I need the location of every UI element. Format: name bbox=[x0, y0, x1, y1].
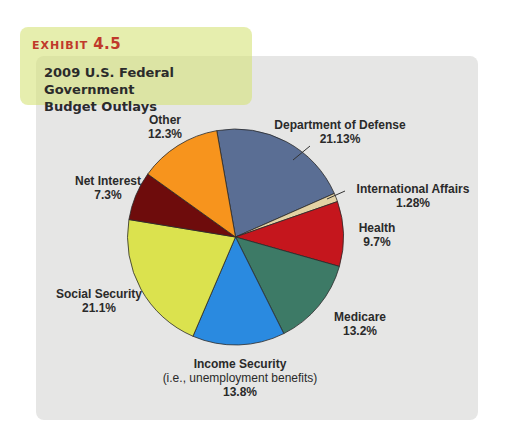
label-health: Health 9.7% bbox=[352, 221, 402, 249]
interest-value: 7.3% bbox=[68, 188, 148, 202]
label-other: Other 12.3% bbox=[140, 113, 190, 141]
label-intl: International Affairs 1.28% bbox=[348, 182, 478, 210]
income-note: (i.e., unemployment benefits) bbox=[160, 371, 320, 385]
health-name: Health bbox=[352, 221, 402, 235]
defense-name: Department of Defense bbox=[265, 118, 415, 132]
income-name: Income Security bbox=[160, 357, 320, 371]
medicare-name: Medicare bbox=[325, 310, 395, 324]
label-social-security: Social Security 21.1% bbox=[44, 287, 154, 315]
label-net-interest: Net Interest 7.3% bbox=[68, 174, 148, 202]
income-value: 13.8% bbox=[160, 385, 320, 399]
defense-value: 21.13% bbox=[265, 132, 415, 146]
label-income-security: Income Security (i.e., unemployment bene… bbox=[160, 357, 320, 399]
pie-slices bbox=[127, 129, 343, 345]
social-name: Social Security bbox=[44, 287, 154, 301]
intl-name: International Affairs bbox=[348, 182, 478, 196]
health-value: 9.7% bbox=[352, 235, 402, 249]
interest-name: Net Interest bbox=[68, 174, 148, 188]
other-name: Other bbox=[140, 113, 190, 127]
label-medicare: Medicare 13.2% bbox=[325, 310, 395, 338]
social-value: 21.1% bbox=[44, 301, 154, 315]
medicare-value: 13.2% bbox=[325, 324, 395, 338]
intl-value: 1.28% bbox=[348, 196, 478, 210]
other-value: 12.3% bbox=[140, 127, 190, 141]
label-defense: Department of Defense 21.13% bbox=[265, 118, 415, 146]
